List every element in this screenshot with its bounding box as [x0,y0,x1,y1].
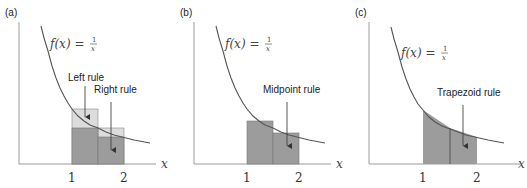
trapezoid-rule-label: Trapezoid rule [437,87,501,98]
tick-1: 1 [68,171,76,185]
numerical-integration-diagram: (a) f(x) = 1 x Left rule Right rule x 1 … [0,0,527,188]
panel-a: (a) f(x) = 1 x Left rule Right rule x 1 … [5,7,168,185]
frac-numerator: 1 [92,36,96,44]
curve-1-over-x [391,27,504,143]
midpoint-rect-1 [247,121,273,164]
x-axis-label: x [518,157,525,171]
panel-c-label: (c) [355,7,367,18]
tick-2: 2 [295,171,303,185]
midpoint-rule-label: Midpoint rule [263,84,321,95]
right-rule-rect-1 [72,128,98,164]
frac-numerator: 1 [443,45,447,53]
midpoint-rect-2 [273,133,299,164]
tick-1: 1 [419,171,427,185]
x-axis-label: x [161,157,168,171]
function-label: f(x) = [400,46,435,60]
frac-denominator: x [442,54,446,62]
panel-b: (b) f(x) = 1 x Midpoint rule x 1 2 [180,7,343,185]
tick-2: 2 [473,171,481,185]
left-rule-label: Left rule [68,72,105,83]
function-label: f(x) = [49,37,84,51]
panel-c: (c) f(x) = 1 x Trapezoid rule x 1 2 [355,7,525,185]
panel-b-label: (b) [180,7,192,18]
right-rule-label: Right rule [94,84,137,95]
function-label: f(x) = [224,37,259,51]
frac-denominator: x [91,45,95,53]
tick-1: 1 [243,171,251,185]
frac-denominator: x [266,45,270,53]
panel-a-label: (a) [5,7,17,18]
tick-2: 2 [120,171,128,185]
x-axis-label: x [336,157,343,171]
frac-numerator: 1 [267,36,271,44]
